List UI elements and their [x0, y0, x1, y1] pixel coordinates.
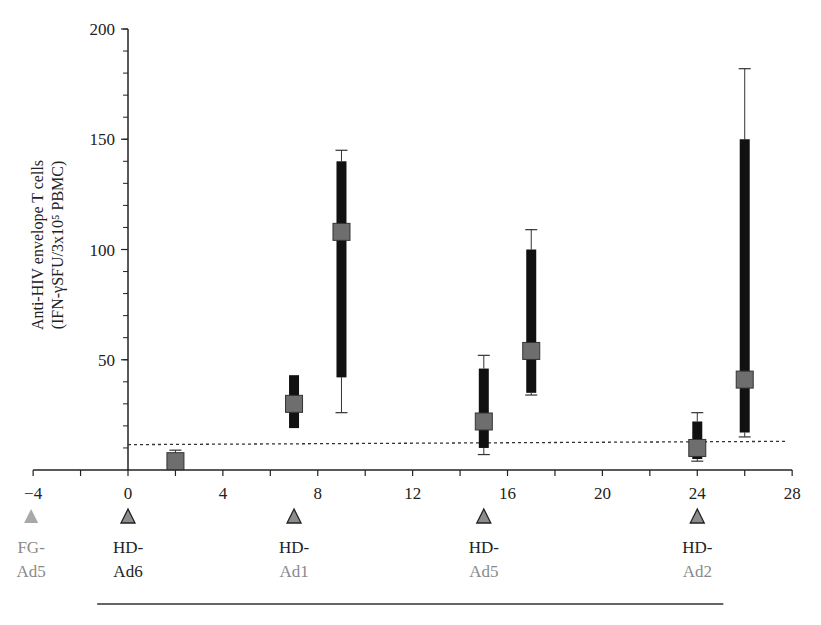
y-axis-title-line1: Anti-HIV envelope T cells [29, 160, 47, 330]
x-tick-label: 0 [124, 484, 133, 503]
median-marker [736, 371, 753, 388]
median-marker [167, 453, 184, 470]
data-series [167, 69, 753, 470]
median-marker [523, 342, 540, 359]
data-point [689, 413, 706, 462]
y-tick-label: 200 [90, 20, 116, 39]
median-marker [689, 439, 706, 456]
data-point [333, 150, 350, 412]
x-tick-label: 4 [219, 484, 228, 503]
data-point [736, 69, 753, 437]
triangle-icon [121, 509, 135, 523]
vaccination-label-line2: Ad5 [16, 562, 45, 581]
triangle-icon [477, 509, 491, 523]
median-marker [475, 413, 492, 430]
chart: 50100150200 −40481216202428 FG-Ad5HD-Ad6… [0, 0, 821, 625]
data-point [167, 450, 184, 470]
data-point [286, 375, 303, 428]
median-marker [286, 395, 303, 412]
x-tick-label: 28 [784, 484, 801, 503]
data-point [475, 355, 492, 454]
vaccination-label-line1: HD- [279, 538, 310, 557]
x-tick-label: 24 [689, 484, 707, 503]
y-axis: 50100150200 [90, 20, 129, 470]
vaccination-label-line1: FG- [17, 538, 45, 557]
vaccination-hdad6: HD-Ad6 [113, 509, 144, 581]
median-marker [333, 223, 350, 240]
vaccination-label-line1: HD- [113, 538, 144, 557]
vaccination-label-line2: Ad5 [469, 562, 498, 581]
triangle-icon [24, 509, 38, 523]
data-point [523, 230, 540, 395]
x-tick-label: 16 [499, 484, 516, 503]
vaccination-label-line1: HD- [682, 538, 713, 557]
vaccination-fgad5: FG-Ad5 [16, 509, 45, 581]
y-tick-label: 50 [98, 351, 115, 370]
range-bar [479, 369, 489, 448]
triangle-icon [287, 509, 301, 523]
vaccination-hdad1: HD-Ad1 [279, 509, 310, 581]
x-tick-label: 20 [594, 484, 611, 503]
vaccination-label-line1: HD- [469, 538, 500, 557]
x-tick-label: 8 [314, 484, 323, 503]
vaccination-hdad5: HD-Ad5 [469, 509, 500, 581]
vaccination-hdad2: HD-Ad2 [682, 509, 713, 581]
y-tick-label: 150 [90, 130, 116, 149]
y-tick-label: 100 [90, 241, 116, 260]
vaccination-label-line2: Ad1 [279, 562, 308, 581]
x-tick-label: 12 [404, 484, 421, 503]
range-bar [526, 250, 536, 393]
x-axis: −40481216202428 [24, 470, 801, 503]
y-axis-title: Anti-HIV envelope T cells (IFN-γSFU/3x10… [29, 160, 67, 330]
vaccination-label-line2: Ad2 [683, 562, 712, 581]
range-bar [336, 161, 346, 377]
y-axis-title-line2: (IFN-γSFU/3x10⁵ PBMC) [49, 161, 67, 330]
triangle-icon [690, 509, 704, 523]
vaccination-markers: FG-Ad5HD-Ad6HD-Ad1HD-Ad5HD-Ad2 [16, 509, 723, 604]
vaccination-label-line2: Ad6 [113, 562, 142, 581]
x-tick-label: −4 [24, 484, 43, 503]
